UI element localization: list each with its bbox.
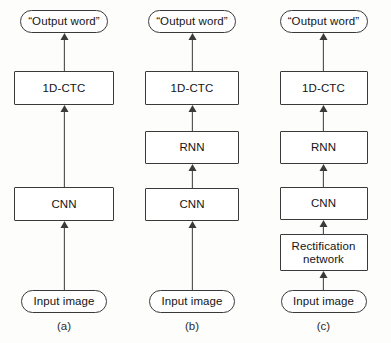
node-rectification-network: Rectification network [280, 234, 368, 271]
flow-arrow-up-icon [187, 221, 198, 290]
node-label: “Output word” [156, 15, 228, 28]
arrow-shaft [323, 39, 324, 71]
arrowhead-icon [320, 105, 328, 112]
node-label: “Output word” [28, 15, 100, 28]
arrow-shaft [323, 226, 324, 234]
flow-arrow-up-icon [187, 164, 198, 188]
flow-arrow-up-icon [59, 105, 70, 187]
flow-arrow-up-icon [59, 33, 70, 71]
pipeline-diagram: “Output word”1D-CTCCNNInput image(a)“Out… [0, 0, 391, 343]
node-rnn: RNN [145, 131, 239, 164]
node-label: CNN [51, 198, 76, 211]
arrowhead-icon [60, 105, 68, 112]
node-label: “Output word” [288, 15, 360, 28]
node-label: Input image [33, 295, 94, 308]
pipeline-column-c: “Output word”1D-CTCRNNCNNRectification n… [256, 0, 391, 343]
flow-arrow-up-icon [318, 220, 329, 234]
arrow-shaft [191, 170, 192, 188]
subfigure-caption: (b) [185, 320, 199, 332]
node-label: RNN [179, 141, 204, 154]
node-label: CNN [179, 198, 204, 211]
flow-arrow-up-icon [318, 271, 329, 290]
flow-arrow-up-icon [187, 105, 198, 131]
node-input-image: Input image [21, 290, 107, 313]
node-label: 1D-CTC [171, 82, 214, 95]
arrow-shaft [323, 111, 324, 131]
node-output-word: “Output word” [280, 10, 368, 33]
node-label: RNN [311, 141, 336, 154]
subfigure-caption: (a) [57, 320, 71, 332]
node-output-word: “Output word” [20, 10, 108, 33]
arrow-shaft [191, 39, 192, 71]
arrow-shaft [191, 111, 192, 131]
flow-arrow-up-icon [318, 105, 329, 131]
arrow-shaft [323, 170, 324, 187]
arrowhead-icon [60, 33, 68, 40]
node-label: 1D-CTC [302, 82, 345, 95]
node-input-image: Input image [281, 290, 367, 313]
node-label: CNN [311, 197, 336, 210]
arrowhead-icon [320, 164, 328, 171]
arrow-shaft [63, 39, 64, 71]
node-cnn: CNN [280, 187, 368, 220]
node-1d-ctc: 1D-CTC [14, 71, 114, 105]
arrowhead-icon [320, 33, 328, 40]
pipeline-column-a: “Output word”1D-CTCCNNInput image(a) [0, 0, 128, 343]
arrowhead-icon [188, 221, 196, 228]
subfigure-caption: (c) [317, 320, 330, 332]
arrowhead-icon [320, 220, 328, 227]
node-input-image: Input image [149, 290, 235, 313]
arrow-shaft [191, 227, 192, 290]
flow-arrow-up-icon [187, 33, 198, 71]
pipeline-column-b: “Output word”1D-CTCRNNCNNInput image(b) [128, 0, 256, 343]
node-1d-ctc: 1D-CTC [145, 71, 239, 105]
arrowhead-icon [188, 164, 196, 171]
node-output-word: “Output word” [148, 10, 236, 33]
arrow-shaft [323, 277, 324, 290]
flow-arrow-up-icon [59, 221, 70, 290]
node-label: Input image [293, 295, 354, 308]
arrowhead-icon [60, 221, 68, 228]
node-1d-ctc: 1D-CTC [280, 71, 368, 105]
node-label: Input image [161, 295, 222, 308]
arrow-shaft [63, 227, 64, 290]
node-cnn: CNN [14, 187, 114, 221]
arrowhead-icon [188, 105, 196, 112]
arrowhead-icon [320, 271, 328, 278]
node-label: Rectification network [292, 240, 356, 266]
node-label: 1D-CTC [43, 82, 86, 95]
arrowhead-icon [188, 33, 196, 40]
arrow-shaft [63, 111, 64, 187]
flow-arrow-up-icon [318, 33, 329, 71]
flow-arrow-up-icon [318, 164, 329, 187]
node-cnn: CNN [145, 188, 239, 221]
node-rnn: RNN [280, 131, 368, 164]
